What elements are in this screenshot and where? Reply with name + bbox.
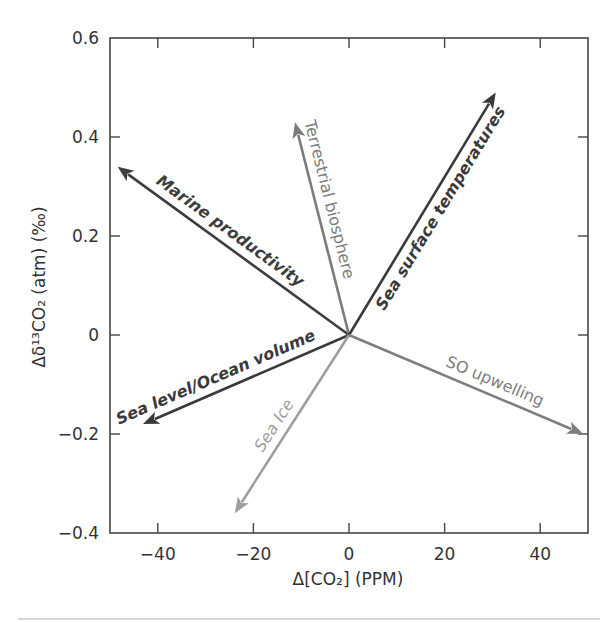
x-tick-label: −40 bbox=[140, 544, 176, 564]
x-tick-label: 20 bbox=[434, 544, 456, 564]
arrow-label: Sea surface temperatures bbox=[371, 103, 509, 314]
y-tick-label: 0 bbox=[88, 325, 99, 345]
x-tick-label: −20 bbox=[235, 544, 271, 564]
bottom-divider bbox=[18, 618, 600, 620]
arrow-label: Marine productivity bbox=[153, 171, 308, 291]
y-tick-label: −0.2 bbox=[58, 424, 99, 444]
arrow-so-upwelling: SO upwelling bbox=[349, 335, 583, 434]
y-tick-label: 0.6 bbox=[72, 28, 99, 48]
axis-ticks: −40−2002040−0.4−0.200.20.40.6 bbox=[58, 28, 588, 564]
arrow-sea-surface-temperatures: Sea surface temperatures bbox=[349, 92, 509, 335]
arrow-marine-productivity: Marine productivity bbox=[118, 167, 349, 335]
y-tick-label: 0.2 bbox=[72, 226, 99, 246]
y-tick-label: 0.4 bbox=[72, 127, 99, 147]
arrow-sea-level-ocean-volume: Sea level/Ocean volume bbox=[113, 325, 349, 428]
arrow-series: Marine productivityTerrestrial biosphere… bbox=[113, 92, 583, 513]
arrowhead-icon bbox=[118, 167, 135, 182]
x-tick-label: 0 bbox=[344, 544, 355, 564]
plot-border bbox=[110, 38, 588, 533]
vector-chart: −40−2002040−0.4−0.200.20.40.6 Marine pro… bbox=[0, 0, 614, 622]
y-axis-label: Δδ¹³CO₂ (atm) (‰) bbox=[29, 206, 49, 368]
y-tick-label: −0.4 bbox=[58, 523, 99, 543]
plot-frame bbox=[110, 38, 588, 533]
x-tick-label: 40 bbox=[529, 544, 551, 564]
arrowhead-icon bbox=[235, 496, 249, 513]
x-axis-label: Δ[CO₂] (PPM) bbox=[293, 569, 404, 589]
